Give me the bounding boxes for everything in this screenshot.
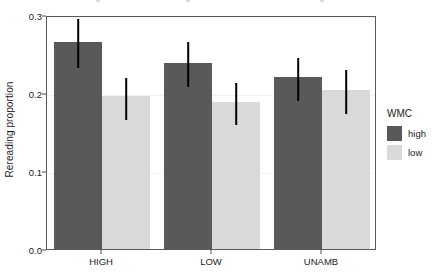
plot-panel [46, 16, 376, 250]
legend-title: WMC [387, 108, 436, 119]
x-axis: HIGHLOWUNAMB [46, 250, 376, 279]
y-axis-tick-mark [42, 16, 46, 17]
legend-item-high[interactable]: high [387, 124, 436, 143]
top-edge-artifact [0, 0, 436, 3]
error-bar-high-high [77, 19, 79, 68]
x-axis-tick-label-high: HIGH [89, 256, 113, 267]
y-axis-tick-label: 0.3 [29, 11, 42, 22]
x-axis-tick-mark [211, 250, 212, 254]
artifact-mark [320, 0, 324, 2]
y-axis-tick-label: 0.0 [29, 245, 42, 256]
y-axis-tick-mark [42, 172, 46, 173]
y-axis-tick-mark [42, 250, 46, 251]
error-bar-low-high [187, 42, 189, 87]
x-axis-tick-label-low: LOW [200, 256, 222, 267]
error-bar-low-low [235, 83, 237, 126]
artifact-mark [186, 0, 190, 2]
gridline [47, 17, 375, 18]
bar-unamb-high [274, 77, 322, 249]
artifact-mark [96, 0, 100, 2]
bar-chart: Rereading proportion 0.00.10.20.3 HIGHLO… [0, 0, 436, 279]
x-axis-tick-label-unamb: UNAMB [304, 256, 338, 267]
legend-item-low[interactable]: low [387, 143, 436, 162]
error-bar-unamb-low [345, 70, 347, 114]
legend: WMC high low [387, 108, 436, 162]
y-axis-tick-labels: 0.00.10.20.3 [16, 0, 42, 279]
x-axis-tick-mark [321, 250, 322, 254]
legend-label-low: low [408, 147, 422, 158]
y-axis-title-text: Rereading proportion [5, 81, 16, 177]
y-axis-tick-mark [42, 94, 46, 95]
y-axis-tick-label: 0.1 [29, 167, 42, 178]
legend-label-high: high [408, 128, 426, 139]
bar-low-high [164, 63, 212, 249]
legend-swatch-high-icon [387, 126, 402, 141]
y-axis-tick-label: 0.2 [29, 89, 42, 100]
bar-high-high [54, 42, 102, 249]
legend-swatch-low-icon [387, 145, 402, 160]
error-bar-unamb-high [297, 58, 299, 102]
error-bar-high-low [125, 78, 127, 120]
x-axis-tick-mark [101, 250, 102, 254]
